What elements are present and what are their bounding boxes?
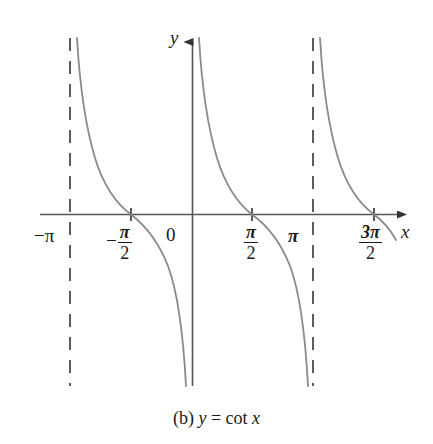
- tick-label-neg-pi-text: −π: [34, 225, 54, 246]
- fraction-three-pi-over-2: 3π 2: [359, 223, 382, 263]
- caption-equals: =: [211, 408, 221, 428]
- minus-sign-icon: −: [106, 231, 117, 250]
- fraction-denominator: 2: [246, 243, 255, 262]
- fraction-numerator: 3π: [359, 223, 382, 243]
- figure-caption: (b) y = cot x: [0, 408, 433, 429]
- fraction-numerator: π: [244, 223, 258, 243]
- tick-label-neg-pi: −π: [34, 226, 54, 245]
- fraction-pi-over-2-right: π 2: [244, 223, 258, 263]
- fraction-denominator: 2: [366, 243, 375, 262]
- caption-prefix: (b): [173, 408, 194, 428]
- tick-label-three-pi-over-2: 3π 2: [359, 222, 382, 262]
- figure-cotangent-graph: y x 0 −π − π 2 π 2 π 3π 2 (b) y: [0, 0, 433, 444]
- curve-branch-pi-to-2pi: [320, 38, 396, 240]
- curve-branch-0-to-pi: [199, 38, 308, 386]
- fraction-pi-over-2: π 2: [118, 223, 132, 263]
- x-axis-label: x: [401, 222, 409, 241]
- caption-x: x: [252, 408, 260, 428]
- tick-label-zero: 0: [166, 225, 176, 244]
- caption-y: y: [198, 408, 206, 428]
- asymptote-group: [70, 38, 313, 386]
- fraction-denominator: 2: [120, 243, 129, 262]
- tick-label-pi: π: [288, 226, 298, 245]
- y-axis-label: y: [170, 28, 178, 47]
- tick-label-neg-pi-over-2: − π 2: [106, 222, 132, 262]
- cotangent-curves: [77, 38, 396, 386]
- tick-label-pi-over-2: π 2: [244, 222, 258, 262]
- fraction-numerator: π: [118, 223, 132, 243]
- caption-function-name: cot: [226, 408, 248, 428]
